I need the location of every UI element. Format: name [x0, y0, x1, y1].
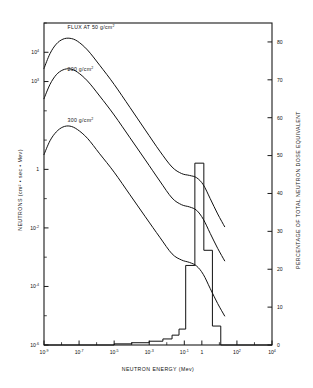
curve-label-50-exponent: 2: [113, 24, 115, 28]
x-tick-label: 10-7: [75, 349, 84, 355]
x-tick-label: 104: [268, 349, 276, 355]
flux-curve-3: [44, 126, 225, 316]
x-tick-label: 1: [200, 349, 203, 355]
y-axis-title: NEUTRONS (cm² • sec • Mev): [17, 149, 23, 231]
x-tick-exponent: 2: [239, 349, 241, 353]
right-tick-label: 70: [277, 77, 283, 83]
y-tick-exponent: -4: [36, 283, 39, 287]
x-tick-exponent: 4: [274, 349, 276, 353]
y-tick-exponent: -6: [36, 342, 39, 346]
x-tick-exponent: -3: [150, 349, 153, 353]
y-tick-label: 103: [31, 78, 39, 84]
flux-curves: [44, 38, 225, 316]
x-axis-title: NEUTRON ENERGY (Mev): [122, 366, 195, 372]
right-tick-label: 0: [277, 342, 280, 348]
y-axis-tick-labels: 104103110-210-410-6: [30, 49, 39, 348]
dose-equivalent-histogram: [44, 163, 272, 345]
right-tick-label: 50: [277, 152, 283, 158]
right-axis-title: PERCENTAGE OF TOTAL NEUTRON DOSE EQUIVAL…: [295, 111, 301, 269]
right-tick-label: 20: [277, 266, 283, 272]
x-tick-exponent: -5: [115, 349, 118, 353]
y-axis-ticks: [44, 23, 49, 345]
curve-label-50: FLUX AT 50 g/cm2: [68, 24, 115, 30]
x-tick-exponent: -1: [186, 349, 189, 353]
right-tick-label: 30: [277, 228, 283, 234]
curve-annotations: FLUX AT 50 g/cm2200 g/cm2300 g/cm2: [68, 24, 115, 123]
y-tick-exponent: 3: [37, 78, 39, 82]
y-tick-exponent: -2: [36, 225, 39, 229]
curve-label-200: 200 g/cm2: [68, 66, 94, 72]
curve-label-300: 300 g/cm2: [68, 117, 94, 123]
x-tick-label: 10-5: [110, 349, 119, 355]
curve-label-300-exponent: 2: [91, 117, 93, 121]
right-axis-tick-labels: 01020304050607080: [277, 39, 283, 348]
y-tick-label: 104: [31, 49, 39, 55]
y-tick-exponent: 4: [37, 49, 39, 53]
x-tick-exponent: -9: [45, 349, 48, 353]
curve-label-200-exponent: 2: [91, 66, 93, 70]
right-tick-label: 80: [277, 39, 283, 45]
x-tick-exponent: -7: [80, 349, 83, 353]
x-tick-label: 10-3: [145, 349, 154, 355]
y-tick-label: 1: [36, 166, 39, 172]
right-axis-ticks: [268, 42, 273, 345]
flux-curve-2: [44, 69, 225, 261]
neutron-spectrum-figure: 10-910-710-510-310-11102104 104103110-21…: [0, 0, 313, 388]
chart-canvas: 10-910-710-510-310-11102104 104103110-21…: [0, 0, 313, 388]
x-tick-label: 10-1: [180, 349, 189, 355]
x-axis-tick-labels: 10-910-710-510-310-11102104: [40, 349, 276, 355]
y-tick-label: 10-6: [30, 342, 39, 348]
x-tick-label: 10-9: [40, 349, 49, 355]
x-tick-label: 102: [233, 349, 241, 355]
right-tick-label: 10: [277, 304, 283, 310]
y-tick-label: 10-2: [30, 225, 39, 231]
dose-staircase: [44, 163, 272, 345]
right-tick-label: 40: [277, 190, 283, 196]
right-tick-label: 60: [277, 115, 283, 121]
y-tick-label: 10-4: [30, 283, 39, 289]
